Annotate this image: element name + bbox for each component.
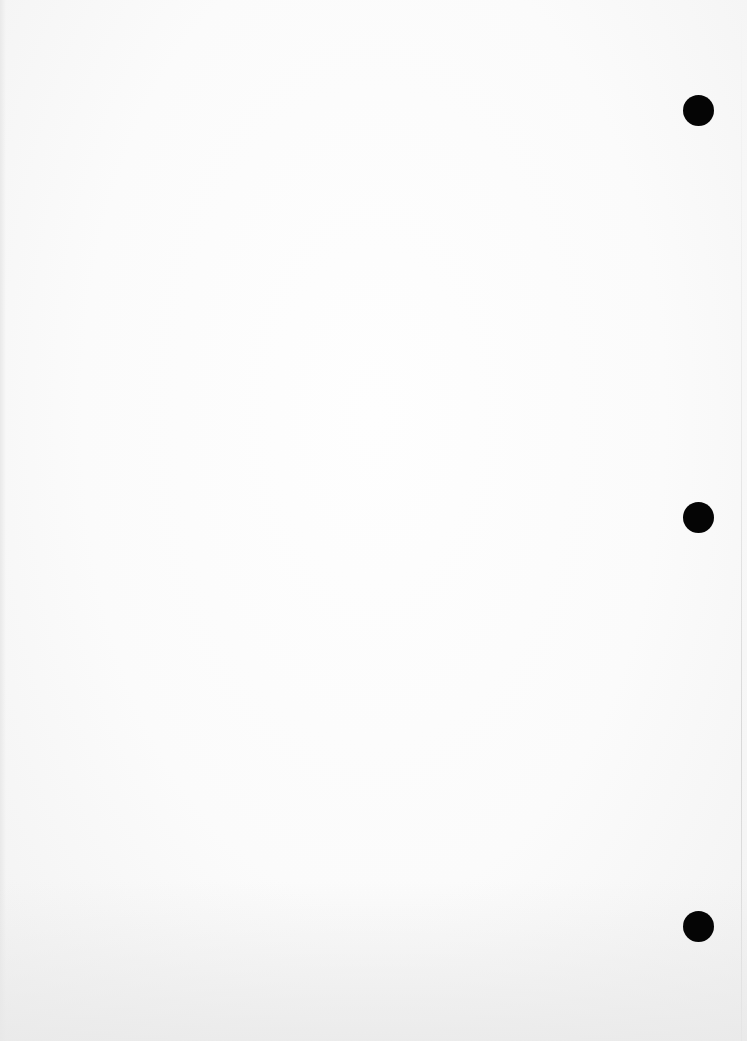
page-bottom-shade	[0, 881, 747, 1041]
scanned-page	[0, 0, 747, 1041]
punch-hole-bottom-icon	[683, 911, 714, 942]
punch-hole-middle-icon	[683, 502, 714, 533]
punch-hole-top-icon	[683, 95, 714, 126]
